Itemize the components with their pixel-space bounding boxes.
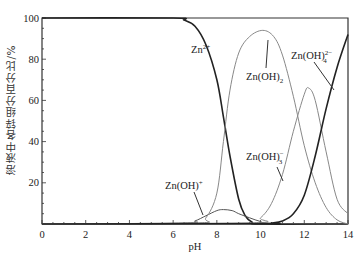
curve-zn-oh- xyxy=(42,210,348,224)
curve-labels: Zn2+ Zn(OH)2 Zn(OH)2−4 Zn(OH)+ Zn(OH)−3 xyxy=(165,40,334,215)
leader-zn-oh-4 xyxy=(314,62,334,90)
y-axis-title: 溶液中各锌组分百分比/% xyxy=(3,45,18,175)
x-tick-label: 10 xyxy=(255,229,266,240)
y-axis-title-wrap: 溶液中各锌组分百分比/% xyxy=(2,40,18,180)
label-zn-oh-4: Zn(OH)2−4 xyxy=(291,49,332,65)
x-tick-label: 4 xyxy=(127,229,133,240)
y-tick-label: 80 xyxy=(29,54,40,65)
y-tick-label: 100 xyxy=(23,13,39,24)
x-tick-label: 14 xyxy=(343,229,354,240)
label-zn-oh-2: Zn(OH)2 xyxy=(246,71,284,85)
y-tick-label: 20 xyxy=(29,177,40,188)
axes: 0246810121420406080100 xyxy=(23,13,354,241)
leader-zn-oh-plus xyxy=(194,192,203,215)
x-tick-label: 8 xyxy=(214,229,219,240)
speciation-chart: 0246810121420406080100 Zn2+ Zn(OH)2 Zn(O… xyxy=(0,0,363,263)
y-tick-label: 60 xyxy=(29,95,40,106)
x-tick-label: 2 xyxy=(83,229,88,240)
x-tick-label: 6 xyxy=(171,229,176,240)
y-tick-label: 40 xyxy=(29,136,40,147)
x-tick-label: 12 xyxy=(299,229,310,240)
leader-zn-oh-2 xyxy=(266,40,268,68)
x-axis-title: pH xyxy=(189,241,202,252)
label-zn2plus: Zn2+ xyxy=(191,43,210,55)
label-zn-oh-3: Zn(OH)−3 xyxy=(246,150,284,166)
curve-zn-oh-3- xyxy=(42,88,348,224)
label-zn-oh-plus: Zn(OH)+ xyxy=(165,179,203,192)
x-tick-label: 0 xyxy=(39,229,44,240)
